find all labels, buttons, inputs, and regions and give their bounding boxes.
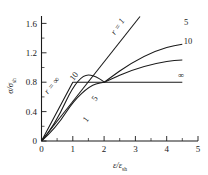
y-axis-title: σ/σsh: [5, 78, 17, 94]
y-tick-labels: 0 0.4 0.8 1.2 1.6: [26, 19, 38, 147]
curves: [42, 17, 183, 142]
x-tick-labels: 0 1 2 3 4 5: [39, 144, 201, 154]
x-tick-label: 4: [164, 144, 169, 154]
svg-text:ε/εsh: ε/εsh: [113, 160, 127, 172]
stress-strain-chart: 0 1 2 3 4 5 0 0.4 0.8 1.2 1.6 σ/σsh ε/εs…: [0, 0, 208, 175]
y-tick-label: 0: [33, 136, 38, 146]
curve-label-5-right: 5: [184, 17, 188, 27]
x-axis-title-sub: sh: [122, 166, 127, 172]
x-tick-label: 2: [102, 144, 107, 154]
y-tick-label: 0.4: [26, 107, 38, 117]
y-tick-label: 1.6: [26, 19, 38, 29]
x-axis-title: ε/εsh: [113, 160, 127, 172]
curve-label-infinity-right: ∞: [178, 70, 184, 80]
y-major-ticks: [42, 23, 47, 141]
y-axis-title-sub: sh: [11, 78, 17, 83]
curve-label-1-left: 1: [80, 115, 91, 124]
y-tick-label: 0.8: [26, 77, 38, 87]
curve-label-r-1: r = 1: [108, 16, 126, 36]
axes: [42, 16, 199, 141]
curve-label-5-left: 5: [89, 94, 100, 103]
curve-annotations: r = ∞ 10 5 1 r = 1 5 10 ∞: [42, 16, 193, 124]
curve-r-infinity: [42, 82, 183, 141]
x-tick-label: 1: [71, 144, 76, 154]
y-tick-label: 1.2: [26, 48, 37, 58]
chart-container: 0 1 2 3 4 5 0 0.4 0.8 1.2 1.6 σ/σsh ε/εs…: [0, 0, 208, 175]
x-tick-label: 5: [196, 144, 201, 154]
curve-label-r-infinity: r = ∞: [42, 74, 62, 95]
x-tick-label: 0: [39, 144, 44, 154]
x-tick-label: 3: [133, 144, 138, 154]
svg-text:σ/σsh: σ/σsh: [5, 78, 17, 94]
curve-r-5: [42, 44, 183, 141]
curve-label-10-right: 10: [184, 36, 193, 46]
